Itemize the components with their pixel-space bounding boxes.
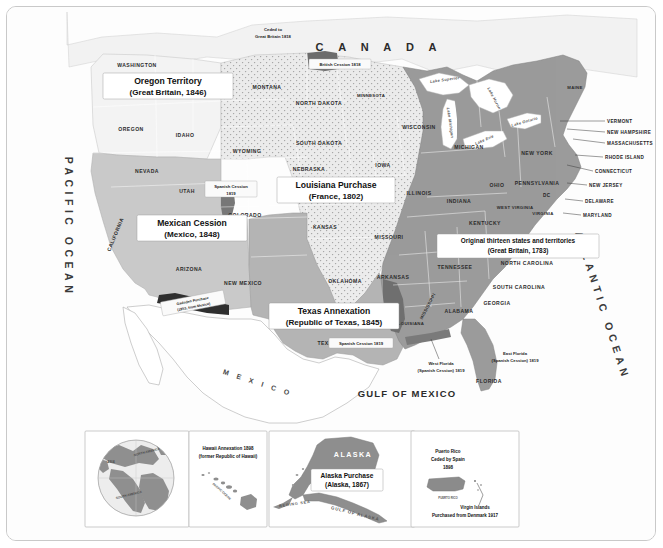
callout-maryland: MARYLAND <box>583 213 612 218</box>
callout-rhode-island: RHODE ISLAND <box>605 155 644 160</box>
inset-alaska: ALASKA Alaska Purchase (Alaska, 1867) BE… <box>269 431 415 527</box>
state-arkansas: ARKANSAS <box>377 274 410 280</box>
state-new-mexico: NEW MEXICO <box>224 280 262 286</box>
state-utah: UTAH <box>179 188 195 194</box>
state-idaho: IDAHO <box>176 132 195 138</box>
state-oregon: OREGON <box>118 126 143 132</box>
box-mexican-title: Mexican Cession <box>157 218 227 228</box>
state-minnesota: MINNESOTA <box>357 93 385 98</box>
state-south-carolina: SOUTH CAROLINA <box>493 284 545 290</box>
alaska-region-name: ALASKA <box>334 450 372 459</box>
state-montana: MONTANA <box>253 84 282 90</box>
note-spanish-cession-west-line2: 1819 <box>226 191 236 196</box>
state-nebraska: NEBRASKA <box>293 166 325 172</box>
box-texas-title: Texas Annexation <box>298 306 371 316</box>
alaska-box-line1: Alaska Purchase <box>321 472 374 479</box>
inset-globe: ASIA NORTH AMERICA SOUTH AMERICA <box>85 431 189 527</box>
note-west-florida-line1: West Florida <box>428 361 454 366</box>
state-kentucky: KENTUCKY <box>469 220 501 226</box>
state-georgia: GEORGIA <box>483 300 510 306</box>
state-kansas: KANSAS <box>313 224 337 230</box>
pr-line3: 1898 <box>443 465 454 470</box>
label-canada: C A N A D A <box>316 41 443 53</box>
territorial-acquisitions-map: C A N A D A M E X I C O PACIFIC OCEAN AT… <box>7 7 656 541</box>
callout-new-jersey: NEW JERSEY <box>589 183 623 188</box>
state-west-virginia: WEST VIRGINIA <box>497 205 534 210</box>
state-indiana: INDIANA <box>447 198 471 204</box>
vi-line1: Virgin Islands <box>460 505 490 510</box>
box-mexican-subtitle: (Mexico, 1848) <box>164 230 220 239</box>
hawaii-title-line2: (former Republic of Hawaii) <box>199 454 258 459</box>
box-louisiana-subtitle: (France, 1802) <box>309 192 364 201</box>
box-oregon-subtitle: (Great Britain, 1846) <box>130 88 207 97</box>
state-louisiana: LOUISIANA <box>398 321 424 326</box>
callout-dc: DC <box>543 193 551 198</box>
callout-new-hampshire: NEW HAMPSHIRE <box>607 130 651 135</box>
vi-line2: Purchased from Denmark 1917 <box>432 513 499 518</box>
state-wisconsin: WISCONSIN <box>402 124 435 130</box>
note-west-florida-line2: (Spanish Cession) 1819 <box>417 368 465 373</box>
state-wyoming: WYOMING <box>233 148 262 154</box>
label-gulf-of-mexico: GULF OF MEXICO <box>358 388 457 399</box>
state-michigan: MICHIGAN <box>454 144 483 150</box>
callout-delaware: DELAWARE <box>585 199 614 204</box>
map-frame: C A N A D A M E X I C O PACIFIC OCEAN AT… <box>6 6 656 541</box>
state-iowa: IOWA <box>375 162 390 168</box>
state-alabama: ALABAMA <box>445 308 474 314</box>
globe-label-asia: ASIA <box>106 460 115 464</box>
note-ceded-to-gb-line1: Ceded to <box>264 27 282 32</box>
state-ohio: OHIO <box>490 182 505 188</box>
box-original-title: Original thirteen states and territories <box>461 237 576 245</box>
note-east-florida-line2: (Spanish Cession) 1819 <box>491 358 539 363</box>
state-south-dakota: SOUTH DAKOTA <box>296 140 342 146</box>
state-oklahoma: OKLAHOMA <box>328 278 362 284</box>
callout-massachusetts: MASSACHUSETTS <box>607 141 653 146</box>
state-maine: MAINE <box>567 85 582 90</box>
state-missouri: MISSOURI <box>375 234 404 240</box>
inset-caribbean: Puerto Rico Ceded by Spain 1898 PUERTO R… <box>411 431 519 527</box>
pr-line1: Puerto Rico <box>435 449 461 454</box>
callout-vermont: VERMONT <box>607 119 632 124</box>
pr-name: PUERTO RICO <box>438 496 458 500</box>
state-north-dakota: NORTH DAKOTA <box>296 100 342 106</box>
state-florida: FLORIDA <box>476 378 502 384</box>
state-nevada: NEVADA <box>135 168 159 174</box>
state-arizona: ARIZONA <box>176 266 202 272</box>
box-original-subtitle: (Great Britain, 1783) <box>488 247 549 255</box>
alaska-box-line2: (Alaska, 1867) <box>325 481 369 489</box>
state-tennessee: TENNESSEE <box>438 264 473 270</box>
note-spanish-cession-west-line1: Spanish Cession <box>214 184 248 189</box>
state-north-carolina: NORTH CAROLINA <box>501 260 554 266</box>
state-pennsylvania: PENNSYLVANIA <box>515 180 560 186</box>
box-texas-subtitle: (Republic of Texas, 1845) <box>286 318 383 327</box>
inset-hawaii: Hawaii Annexation 1898 (former Republic … <box>189 431 267 527</box>
hawaii-title-line1: Hawaii Annexation 1898 <box>202 446 254 451</box>
state-new-york: NEW YORK <box>521 150 553 156</box>
note-east-florida-line1: East Florida <box>503 351 528 356</box>
state-illinois: ILLINOIS <box>406 190 431 196</box>
puerto-rico-shape <box>427 477 465 491</box>
box-louisiana-title: Louisiana Purchase <box>295 180 376 190</box>
label-pacific-ocean: PACIFIC OCEAN <box>63 157 75 298</box>
state-washington: WASHINGTON <box>117 62 157 68</box>
callout-connecticut: CONNECTICUT <box>595 169 632 174</box>
box-oregon-title: Oregon Territory <box>134 76 202 86</box>
note-ceded-to-gb-line2: Great Britain 1818 <box>255 34 292 39</box>
note-spanish-cession-texas: Spanish Cession 1819 <box>339 341 384 346</box>
note-british-cession: British Cession 1818 <box>319 62 361 67</box>
state-virginia: VIRGINIA <box>532 211 554 216</box>
pr-line2: Ceded by Spain <box>431 457 465 462</box>
